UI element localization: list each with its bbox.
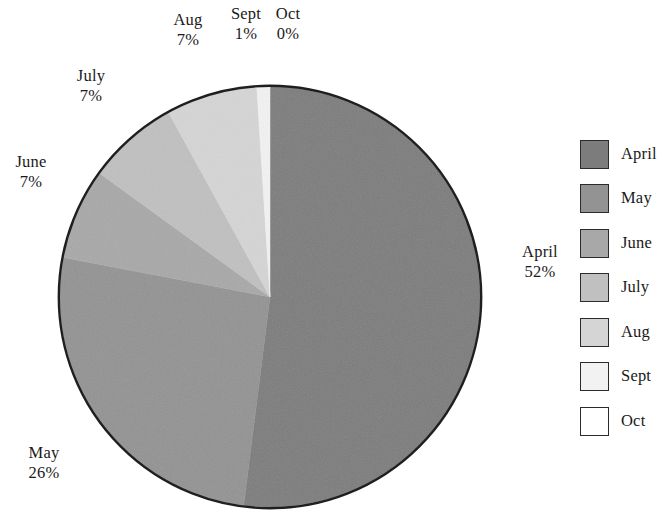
legend-item-sept: Sept (580, 362, 657, 392)
pie-label-july-percent: 7% (68, 86, 114, 106)
legend-item-oct: Oct (580, 406, 657, 436)
legend-label-july: July (621, 279, 649, 296)
chart-legend: AprilMayJuneJulyAugSeptOct (580, 139, 657, 451)
legend-label-may: May (621, 190, 652, 207)
legend-swatch-april (580, 140, 609, 169)
pie-label-may: May 26% (18, 443, 70, 483)
pie-label-oct-percent: 0% (270, 24, 306, 44)
pie-label-july: July 7% (68, 66, 114, 106)
pie-label-may-percent: 26% (18, 463, 70, 483)
pie-label-oct: Oct 0% (270, 4, 306, 44)
legend-swatch-june (580, 229, 609, 258)
pie-label-aug: Aug 7% (166, 10, 210, 50)
pie-label-sept-percent: 1% (225, 24, 267, 44)
legend-item-may: May (580, 184, 657, 214)
legend-swatch-sept (580, 362, 609, 391)
legend-label-aug: Aug (621, 324, 650, 341)
legend-label-oct: Oct (621, 413, 645, 430)
pie-slice-may (60, 258, 270, 506)
pie-label-aug-percent: 7% (166, 30, 210, 50)
pie-label-july-name: July (68, 66, 114, 86)
pie-svg (57, 84, 483, 510)
legend-item-april: April (580, 139, 657, 169)
pie-slice-group (60, 87, 480, 507)
legend-swatch-may (580, 184, 609, 213)
legend-item-aug: Aug (580, 317, 657, 347)
pie-label-april: April 52% (513, 242, 567, 282)
legend-label-april: April (621, 146, 657, 163)
pie-label-aug-name: Aug (166, 10, 210, 30)
pie-label-oct-name: Oct (270, 4, 306, 24)
pie-chart-figure: Aug 7% Sept 1% Oct 0% July 7% June 7% Ma… (0, 0, 669, 520)
legend-swatch-july (580, 273, 609, 302)
pie-label-june-name: June (4, 152, 58, 172)
pie-label-april-name: April (513, 242, 567, 262)
legend-label-june: June (621, 235, 652, 252)
pie-slice-april (244, 87, 481, 507)
pie-label-may-name: May (18, 443, 70, 463)
pie-label-june: June 7% (4, 152, 58, 192)
pie-chart-graphic (57, 84, 483, 510)
legend-item-july: July (580, 273, 657, 303)
pie-label-june-percent: 7% (4, 172, 58, 192)
legend-swatch-aug (580, 318, 609, 347)
legend-label-sept: Sept (621, 368, 651, 385)
pie-label-april-percent: 52% (513, 262, 567, 282)
legend-swatch-oct (580, 407, 609, 436)
legend-item-june: June (580, 228, 657, 258)
pie-label-sept-name: Sept (225, 4, 267, 24)
pie-label-sept: Sept 1% (225, 4, 267, 44)
